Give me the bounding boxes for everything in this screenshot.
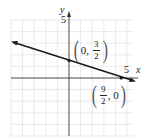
x-tick-5: 5 [124, 64, 129, 75]
x-axis-label: x [136, 64, 140, 75]
label-x-intercept: ( 9 2 , 0 ) [90, 82, 127, 108]
fraction-three-halves: 3 2 [93, 40, 100, 61]
point-y-intercept [67, 59, 70, 62]
y-tick-5: 5 [61, 14, 66, 25]
y-axis-arrow-icon [67, 11, 71, 17]
axes [11, 11, 138, 136]
label-y-intercept: ( 0, 3 2 ) [72, 37, 109, 63]
coordinate-plane [0, 0, 153, 139]
fraction-nine-halves: 9 2 [100, 85, 107, 106]
